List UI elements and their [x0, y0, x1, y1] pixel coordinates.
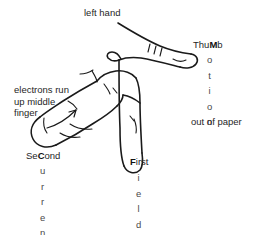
label-field-vertical: i e l d — [136, 170, 141, 232]
label-left-hand: left hand — [84, 7, 120, 19]
thumb-bottom-outline — [119, 58, 180, 67]
label-electrons-note: electrons runup middlefinger — [14, 84, 69, 119]
middle-finger-knuckle-bump — [92, 71, 97, 82]
thumb-top-outline — [118, 23, 191, 54]
current-char-4: n — [40, 225, 45, 235]
current-char-0: u — [40, 163, 45, 179]
thumb-text-post: b — [217, 39, 222, 50]
label-out-of-paper: out of paper — [191, 116, 242, 128]
label-first-finger: First — [130, 156, 148, 168]
second-text-cap: C — [38, 150, 45, 161]
middle-finger-knuckle-bump-2 — [80, 70, 93, 74]
thumb-crease-2 — [154, 46, 156, 54]
current-char-2: r — [41, 194, 44, 210]
label-thumb: ThuMb — [193, 39, 223, 51]
middle-finger-crease-2 — [113, 88, 117, 93]
palm-right-outline — [123, 95, 140, 103]
motion-char-1: t — [208, 68, 211, 84]
field-char-2: l — [138, 201, 140, 217]
palm-outline — [97, 71, 136, 81]
second-text-pre: Se — [26, 150, 38, 161]
diagram-canvas: left hand electrons runup middlefinger T… — [0, 0, 265, 235]
motion-char-0: o — [207, 52, 212, 68]
thumb-crease-1 — [148, 44, 150, 52]
thumb-crease-3 — [160, 48, 162, 56]
electron-flow-arc-2 — [68, 101, 77, 109]
index-finger-right-outline — [136, 78, 142, 153]
middle-finger-crease-1 — [104, 84, 110, 94]
thumb-nail-crease — [173, 59, 186, 61]
current-char-3: e — [40, 210, 45, 226]
first-text-post: irst — [136, 156, 149, 167]
motion-char-2: i — [209, 83, 211, 99]
second-text-post: ond — [45, 150, 61, 161]
electrons-line-3: finger — [14, 107, 38, 118]
electrons-line-1: electrons run — [14, 84, 69, 95]
thumb-text-pre: Thu — [193, 39, 209, 50]
electrons-line-2: up middle — [14, 96, 55, 107]
field-char-0: i — [138, 170, 140, 186]
motion-char-3: o — [207, 99, 212, 115]
current-char-1: r — [41, 179, 44, 195]
field-char-1: e — [136, 186, 141, 202]
label-second-finger: SeCond — [26, 150, 60, 162]
field-char-3: d — [136, 217, 141, 233]
electron-flow-arc — [44, 118, 47, 133]
index-finger-crease-2 — [130, 116, 134, 121]
index-finger-left-outline — [119, 60, 124, 166]
label-current-vertical: u r r e n t — [40, 163, 45, 235]
